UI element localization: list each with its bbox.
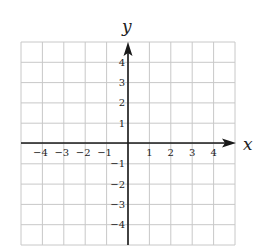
- y-tick-label: −2: [110, 179, 125, 190]
- x-tick-label: −2: [76, 147, 91, 158]
- x-tick-label: −3: [54, 147, 69, 158]
- coordinate-plane: x y −4−3−2−11234 4321−1−2−3−4: [0, 0, 267, 252]
- x-tick-label: 1: [146, 147, 152, 158]
- y-tick-label: −1: [110, 158, 125, 169]
- x-tick-label: −4: [33, 147, 48, 158]
- axes: [21, 42, 236, 245]
- y-axis-label: y: [121, 16, 132, 36]
- x-tick-label: 2: [168, 147, 174, 158]
- x-tick-label: 3: [189, 147, 195, 158]
- x-axis-label: x: [243, 134, 253, 154]
- y-tick-label: 2: [119, 97, 125, 108]
- y-tick-label: −3: [110, 199, 125, 210]
- y-tick-label: −4: [110, 219, 125, 230]
- x-tick-label: 4: [210, 147, 216, 158]
- x-tick-label: −1: [97, 147, 112, 158]
- y-tick-label: 1: [119, 118, 125, 129]
- y-tick-label: 4: [119, 57, 125, 68]
- x-tick-labels: −4−3−2−11234: [33, 147, 217, 158]
- y-tick-label: 3: [119, 77, 125, 88]
